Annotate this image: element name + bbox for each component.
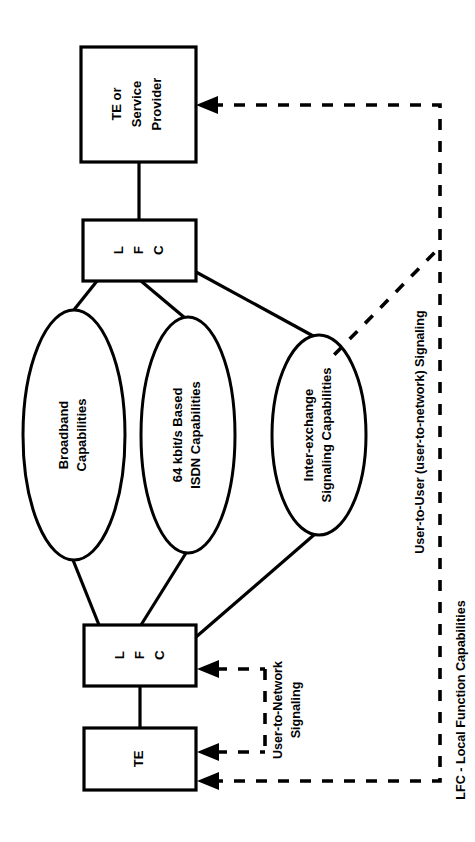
label-user-to-network-line-1: User-to-Network [271, 660, 285, 759]
label-user-to-network-signaling: User-to-Network Signaling [271, 660, 303, 759]
link-interexchange-to-lfc-bottom [196, 534, 315, 637]
network-reference-diagram: TE or Service Provider L F C L F C TE Br… [0, 0, 475, 842]
link-lfc-top-to-interexchange [196, 272, 315, 337]
label-user-to-user-signaling: User-to-User (user-to-network) Signaling [413, 310, 427, 554]
label-lfc-bottom: L F C [112, 650, 167, 660]
label-interexchange-line-2: Signaling Capabilities [319, 367, 334, 502]
dashed-path-user-to-user-signaling-upper [212, 105, 440, 247]
label-lfc-top: L F C [111, 245, 166, 255]
label-user-to-network-line-2: Signaling [289, 682, 303, 739]
arrowhead-into-lfc-bottom [197, 660, 219, 678]
link-lfc-top-to-isdn [141, 281, 185, 318]
legend-lfc: LFC - Local Function Capabilities [454, 600, 468, 799]
legend-lfc-text: LFC - Local Function Capabilities [454, 600, 468, 799]
link-broadband-to-lfc-bottom [73, 560, 99, 625]
label-te-or-service-provider-line-3: Provider [149, 78, 164, 131]
label-interexchange-line-1: Inter-exchange [301, 389, 316, 481]
label-te-or-service-provider-line-2: Service [129, 81, 144, 127]
label-isdn-line-1: 64 kbit/s Based [170, 388, 185, 483]
arrowhead-into-te-upper [197, 743, 219, 761]
label-user-to-user-text: User-to-User (user-to-network) Signaling [413, 310, 427, 554]
label-isdn-line-2: ISDN Capabilities [188, 381, 203, 489]
label-te-text: TE [131, 750, 146, 767]
label-lfc-bottom-letter-l: L [112, 651, 127, 659]
diagram-canvas: TE or Service Provider L F C L F C TE Br… [0, 0, 475, 842]
link-isdn-to-lfc-bottom [141, 553, 186, 625]
link-lfc-top-to-broadband [73, 281, 97, 311]
label-lfc-bottom-letter-f: F [132, 651, 147, 659]
label-lfc-top-letter-f: F [131, 246, 146, 254]
label-lfc-top-letter-c: C [151, 245, 166, 255]
label-broadband-line-1: Broadband [56, 401, 71, 470]
label-broadband-line-2: Capabilities [74, 399, 89, 472]
label-lfc-top-letter-l: L [111, 246, 126, 254]
label-te: TE [131, 750, 146, 767]
label-lfc-bottom-letter-c: C [152, 650, 167, 660]
arrowhead-into-te-lower [197, 772, 219, 790]
arrowhead-into-te-or-service-provider [196, 96, 218, 114]
label-te-or-service-provider-line-1: TE or [109, 87, 124, 120]
